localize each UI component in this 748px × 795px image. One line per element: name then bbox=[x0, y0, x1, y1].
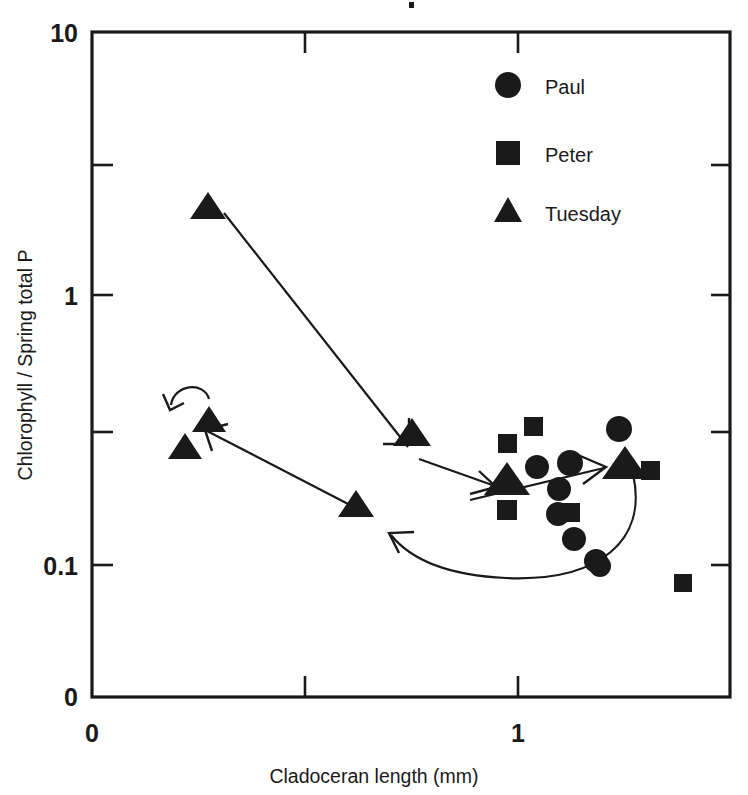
legend-marker-circle-icon bbox=[495, 72, 521, 98]
y-tick-label-1: 1 bbox=[64, 282, 78, 310]
legend-label-paul: Paul bbox=[545, 76, 585, 98]
data-point-circle bbox=[562, 527, 586, 551]
data-point-circle bbox=[589, 555, 611, 577]
y-tick-label-10: 10 bbox=[50, 19, 78, 47]
x-tick-label-1: 1 bbox=[511, 719, 525, 747]
data-point-square bbox=[498, 434, 517, 453]
x-tick-label-0: 0 bbox=[85, 719, 99, 747]
scatter-plot-svg: 10 1 0.1 0 0 1 Cladoceran length (mm) Ch… bbox=[0, 0, 748, 795]
data-point-circle bbox=[546, 502, 570, 526]
data-point-square bbox=[674, 574, 692, 592]
data-point-square bbox=[641, 461, 660, 480]
y-tick-label-0: 0 bbox=[64, 683, 78, 711]
data-point-circle bbox=[557, 450, 583, 476]
data-point-square bbox=[524, 417, 543, 436]
legend-entry-peter[interactable]: Peter bbox=[496, 141, 593, 166]
scan-artifact-speck bbox=[409, 2, 414, 8]
x-axis-title: Cladoceran length (mm) bbox=[269, 765, 478, 787]
legend-marker-square-icon bbox=[496, 141, 520, 165]
data-point-circle bbox=[606, 416, 632, 442]
chart-figure: 10 1 0.1 0 0 1 Cladoceran length (mm) Ch… bbox=[0, 0, 748, 795]
data-point-square bbox=[497, 500, 517, 520]
chart-background bbox=[0, 0, 748, 795]
y-tick-label-0p1: 0.1 bbox=[43, 552, 78, 580]
data-point-circle bbox=[525, 455, 549, 479]
y-axis-title: Chlorophyll / Spring total P bbox=[14, 250, 36, 481]
legend-label-peter: Peter bbox=[545, 144, 593, 166]
legend-label-tuesday: Tuesday bbox=[545, 203, 621, 225]
data-point-circle bbox=[547, 477, 571, 501]
